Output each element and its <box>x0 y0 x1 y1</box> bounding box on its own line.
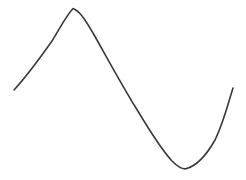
sine-curve-figure <box>0 0 246 180</box>
canvas-background <box>0 0 246 180</box>
drawing-canvas <box>0 0 246 180</box>
